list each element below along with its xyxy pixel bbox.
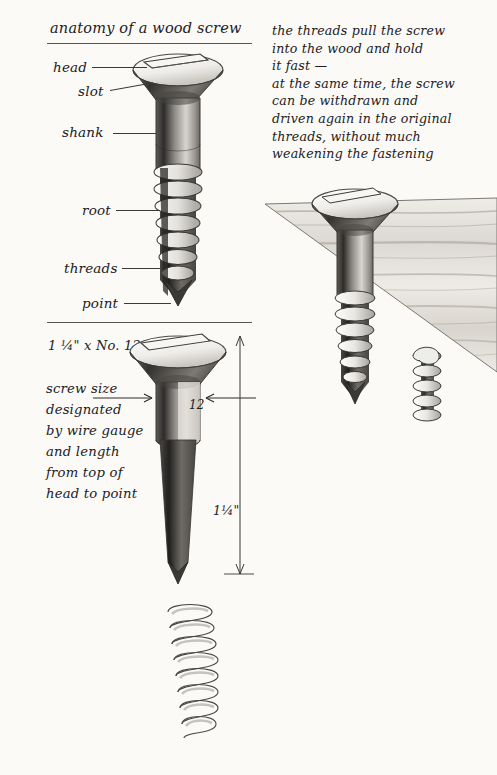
thread-helix-figure [150, 600, 240, 740]
leader-head [92, 67, 147, 68]
note-line: into the wood and hold [272, 40, 492, 58]
caption-line: by wire gauge [46, 420, 191, 441]
note-line: at the same time, the screw [272, 75, 492, 93]
leader-shank [113, 133, 156, 134]
label-root: root [82, 202, 111, 218]
caption-line: from top of [46, 462, 191, 483]
label-threads: threads [64, 260, 118, 276]
section-divider [47, 322, 252, 323]
note-line: weakening the fastening [272, 145, 492, 163]
size-caption: screw size designated by wire gauge and … [46, 378, 191, 504]
caption-line: head to point [46, 483, 191, 504]
note-line: driven again in the original [272, 110, 492, 128]
illustration-page: anatomy of a wood screw [0, 0, 497, 775]
explanatory-note: the threads pull the screw into the wood… [272, 22, 492, 163]
caption-line: screw size [46, 378, 191, 399]
label-shank: shank [62, 124, 104, 140]
note-line: the threads pull the screw [272, 22, 492, 40]
wood-screw-diagram [130, 48, 260, 318]
caption-line: and length [46, 441, 191, 462]
caption-line: designated [46, 399, 191, 420]
gauge-label: 12 [189, 398, 205, 412]
title-divider [47, 43, 252, 44]
leader-root [116, 210, 160, 211]
note-line: it fast — [272, 57, 492, 75]
leader-threads [122, 268, 160, 269]
label-point: point [82, 295, 118, 311]
note-line: can be withdrawn and [272, 92, 492, 110]
page-title: anatomy of a wood screw [50, 20, 242, 36]
label-head: head [53, 59, 87, 75]
note-line: threads, without much [272, 128, 492, 146]
wood-block-figure [265, 186, 497, 416]
length-label: 1¼" [213, 503, 239, 518]
label-slot: slot [78, 83, 104, 99]
leader-point [124, 303, 171, 304]
